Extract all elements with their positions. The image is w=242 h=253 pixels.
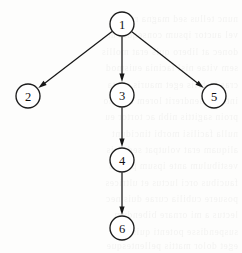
node-label-2: 2 bbox=[25, 90, 31, 104]
graph-node-2[interactable]: 2 bbox=[16, 84, 40, 108]
node-label-3: 3 bbox=[119, 89, 125, 103]
node-label-5: 5 bbox=[211, 90, 217, 104]
graph-node-5[interactable]: 5 bbox=[202, 84, 226, 108]
figure-canvas: nunc tellus sed magna rutrumvel auctor i… bbox=[0, 0, 242, 253]
edges-group bbox=[38, 32, 203, 215]
arrowhead-1-to-3 bbox=[119, 74, 124, 83]
edge-1-to-2 bbox=[44, 32, 112, 84]
graph-node-1[interactable]: 1 bbox=[110, 12, 134, 36]
node-label-1: 1 bbox=[119, 18, 125, 32]
node-label-4: 4 bbox=[119, 154, 126, 168]
node-label-6: 6 bbox=[119, 222, 125, 236]
graph-node-3[interactable]: 3 bbox=[110, 83, 134, 107]
arrowhead-4-to-6 bbox=[119, 207, 124, 216]
arrowhead-3-to-4 bbox=[119, 139, 124, 148]
directed-graph-figure: 123546 bbox=[0, 0, 242, 253]
graph-node-6[interactable]: 6 bbox=[110, 216, 134, 240]
graph-node-4[interactable]: 4 bbox=[110, 148, 134, 172]
nodes-group: 123546 bbox=[16, 12, 226, 240]
edge-1-to-5 bbox=[132, 32, 198, 84]
